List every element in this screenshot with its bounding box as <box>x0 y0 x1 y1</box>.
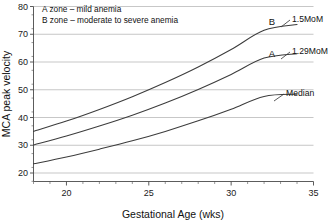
series-label-1-5-mom: 1.5MoM <box>292 14 323 24</box>
legend-line-a: A zone – mild anemia <box>42 4 122 14</box>
x-tick-label-25: 25 <box>144 188 154 198</box>
y-tick-label-50: 50 <box>18 85 28 95</box>
x-tick-label-20: 20 <box>61 188 71 198</box>
series-label-1-29-mom: 1.29MoM <box>292 46 328 56</box>
chart-container: 20304050607080 20253035 MCA peak velocit… <box>0 0 331 222</box>
chart-background <box>0 0 331 222</box>
zone-a-letter: A <box>269 48 276 59</box>
y-axis-title: MCA peak velocity <box>0 50 12 137</box>
x-tick-label-30: 30 <box>226 188 236 198</box>
y-tick-label-30: 30 <box>18 140 28 150</box>
y-tick-label-20: 20 <box>18 168 28 178</box>
y-tick-label-80: 80 <box>18 2 28 12</box>
legend-line-b: B zone – moderate to severe anemia <box>42 15 178 25</box>
x-axis-title: Gestational Age (wks) <box>122 208 224 220</box>
zone-b-letter: B <box>269 16 275 27</box>
y-tick-label-60: 60 <box>18 57 28 67</box>
mca-peak-velocity-chart: 20304050607080 20253035 MCA peak velocit… <box>0 0 331 222</box>
x-tick-label-35: 35 <box>308 188 318 198</box>
series-label-median: Median <box>286 88 314 98</box>
y-tick-label-40: 40 <box>18 113 28 123</box>
y-tick-label-70: 70 <box>18 29 28 39</box>
